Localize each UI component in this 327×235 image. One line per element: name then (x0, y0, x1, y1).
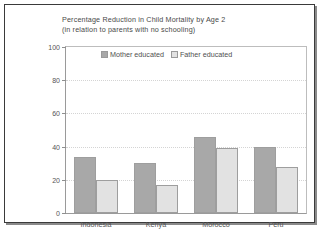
bar (96, 180, 118, 213)
y-axis-label: 100 (48, 44, 60, 51)
legend-item-mother-educated: Mother educated (101, 50, 164, 59)
bar (134, 163, 156, 213)
legend-swatch-icon (171, 51, 178, 58)
bar (276, 167, 298, 213)
x-axis-label: Indonesia (80, 220, 111, 229)
legend-label-father-educated: Father educated (180, 50, 232, 59)
y-axis-tick (62, 147, 66, 148)
bar (216, 148, 238, 213)
y-axis-label: 80 (52, 77, 60, 84)
figure-frame: Percentage Reduction in Child Mortality … (4, 4, 315, 223)
y-axis-tick (62, 180, 66, 181)
y-axis-label: 40 (52, 143, 60, 150)
y-axis-tick (62, 113, 66, 114)
plot-area: 020406080100IndonesiaKenyaMoroccoPeru (65, 46, 307, 214)
legend-item-father-educated: Father educated (171, 50, 232, 59)
y-axis-label: 20 (52, 176, 60, 183)
y-axis-tick (62, 47, 66, 48)
bar (254, 147, 276, 213)
chart-legend: Mother educated Father educated (101, 50, 232, 59)
bar-group (194, 47, 238, 213)
y-axis-tick (62, 213, 66, 214)
chart-title-line-1: Percentage Reduction in Child Mortality … (62, 15, 312, 25)
x-axis-label: Morocco (202, 220, 230, 229)
y-axis-label: 60 (52, 110, 60, 117)
chart-title-line-2: (in relation to parents with no schoolin… (62, 25, 312, 35)
bar (194, 137, 216, 213)
x-axis-label: Kenya (146, 220, 166, 229)
legend-label-mother-educated: Mother educated (110, 50, 164, 59)
chart-title: Percentage Reduction in Child Mortality … (62, 15, 312, 35)
bar-group (74, 47, 118, 213)
y-axis-label: 0 (56, 210, 60, 217)
bar (74, 157, 96, 213)
bar (156, 185, 178, 213)
y-axis-tick (62, 80, 66, 81)
bar-group (134, 47, 178, 213)
legend-swatch-icon (101, 51, 108, 58)
x-axis-label: Peru (268, 220, 283, 229)
bar-group (254, 47, 298, 213)
